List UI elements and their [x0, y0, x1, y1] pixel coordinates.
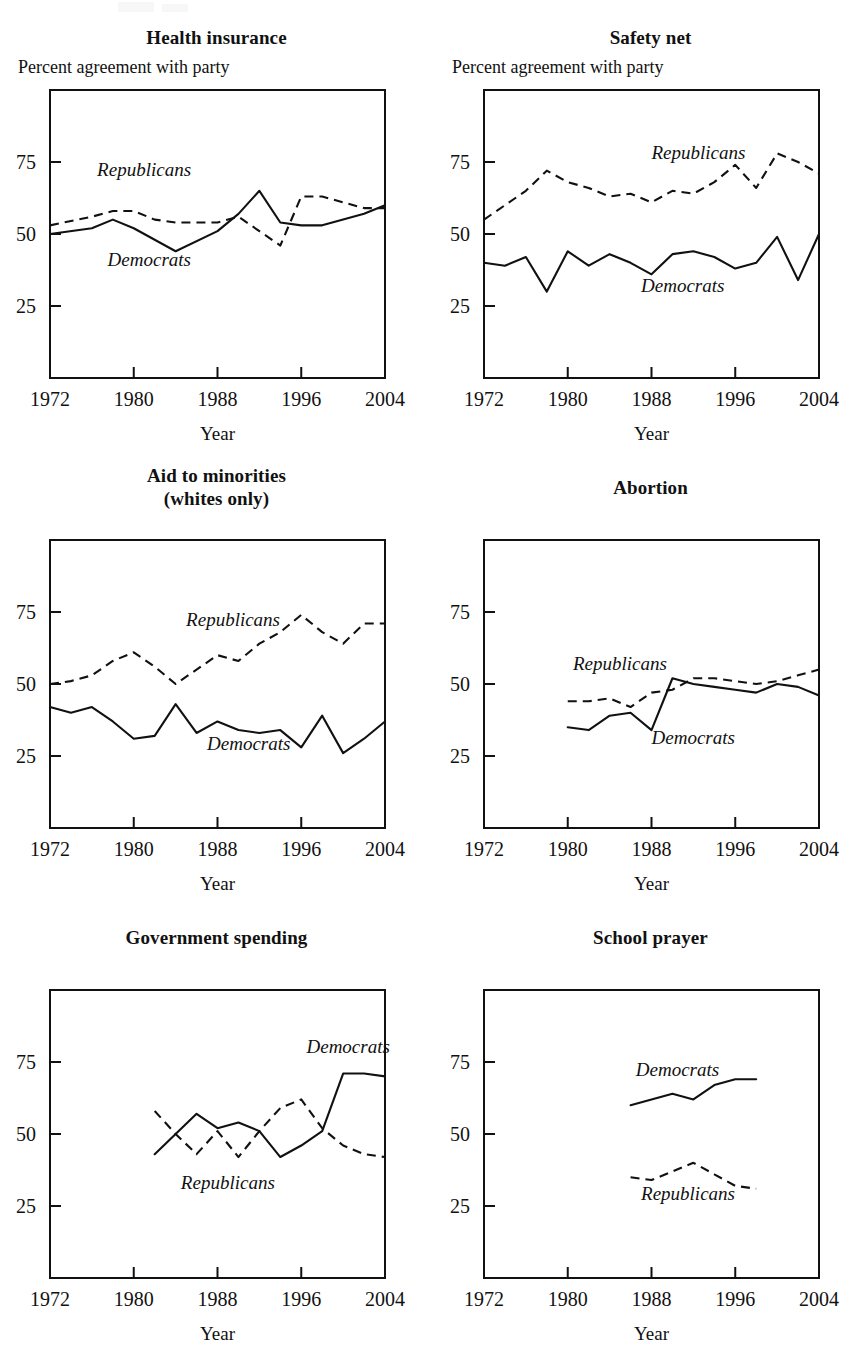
series-line-democrats — [155, 1074, 385, 1158]
y-tick-label: 25 — [16, 745, 36, 767]
series-annotation-republicans: Republicans — [185, 609, 280, 630]
y-tick-label: 25 — [16, 1195, 36, 1217]
x-axis-label: Year — [634, 1323, 670, 1344]
x-tick-label: 1980 — [114, 388, 154, 410]
plot-area-abortion: 25507519721980198819962004RepublicansDem… — [434, 450, 867, 899]
series-annotation-republicans: Republicans — [180, 1172, 275, 1193]
x-tick-label: 1988 — [198, 388, 238, 410]
x-tick-label: 1980 — [548, 838, 588, 860]
chart-panel-abortion: Abortion25507519721980198819962004Republ… — [434, 450, 867, 899]
x-tick-label: 2004 — [365, 1288, 405, 1310]
plot-area-aid-to-minorities: 25507519721980198819962004RepublicansDem… — [0, 450, 433, 899]
y-tick-label: 75 — [16, 1051, 36, 1073]
y-tick-label: 50 — [16, 673, 36, 695]
series-annotation-democrats: Democrats — [107, 249, 191, 270]
x-tick-label: 1988 — [198, 1288, 238, 1310]
plot-frame — [50, 990, 385, 1278]
chart-panel-government-spending: Government spending255075197219801988199… — [0, 900, 433, 1348]
x-tick-label: 2004 — [365, 838, 405, 860]
plot-frame — [50, 90, 385, 378]
plot-area-safety-net: 25507519721980198819962004RepublicansDem… — [434, 0, 867, 449]
x-tick-label: 1996 — [281, 1288, 321, 1310]
x-tick-label: 1996 — [715, 838, 755, 860]
x-tick-label: 1996 — [281, 388, 321, 410]
series-annotation-democrats: Democrats — [640, 275, 724, 296]
plot-frame — [50, 540, 385, 828]
series-annotation-democrats: Democrats — [651, 727, 735, 748]
y-tick-label: 75 — [450, 151, 470, 173]
x-tick-label: 1988 — [632, 1288, 672, 1310]
x-tick-label: 1980 — [548, 388, 588, 410]
x-tick-label: 1980 — [114, 1288, 154, 1310]
x-axis-label: Year — [634, 423, 670, 444]
y-tick-label: 50 — [450, 223, 470, 245]
x-tick-label: 2004 — [799, 838, 839, 860]
chart-panel-school-prayer: School prayer25507519721980198819962004D… — [434, 900, 867, 1348]
y-tick-label: 50 — [16, 223, 36, 245]
plot-area-school-prayer: 25507519721980198819962004DemocratsRepub… — [434, 900, 867, 1348]
series-annotation-republicans: Republicans — [640, 1183, 735, 1204]
plot-area-government-spending: 25507519721980198819962004DemocratsRepub… — [0, 900, 433, 1348]
series-annotation-republicans: Republicans — [572, 653, 667, 674]
x-axis-label: Year — [200, 423, 236, 444]
x-tick-label: 1996 — [715, 388, 755, 410]
series-annotation-democrats: Democrats — [206, 733, 290, 754]
chart-panel-health-insurance: Health insurancePercent agreement with p… — [0, 0, 433, 449]
y-tick-label: 50 — [16, 1123, 36, 1145]
plot-frame — [484, 90, 819, 378]
y-tick-label: 75 — [450, 601, 470, 623]
series-annotation-democrats: Democrats — [305, 1036, 389, 1057]
series-annotation-democrats: Democrats — [635, 1059, 719, 1080]
chart-panel-safety-net: Safety netPercent agreement with party25… — [434, 0, 867, 449]
x-tick-label: 1996 — [281, 838, 321, 860]
x-tick-label: 2004 — [799, 1288, 839, 1310]
x-axis-label: Year — [200, 873, 236, 894]
x-tick-label: 1972 — [464, 838, 504, 860]
x-axis-label: Year — [200, 1323, 236, 1344]
y-tick-label: 25 — [450, 295, 470, 317]
x-tick-label: 1972 — [30, 388, 70, 410]
x-tick-label: 1988 — [632, 388, 672, 410]
y-tick-label: 50 — [450, 673, 470, 695]
x-tick-label: 1980 — [548, 1288, 588, 1310]
series-line-democrats — [631, 1079, 757, 1105]
y-tick-label: 75 — [16, 601, 36, 623]
x-tick-label: 1996 — [715, 1288, 755, 1310]
y-tick-label: 50 — [450, 1123, 470, 1145]
x-tick-label: 1972 — [464, 388, 504, 410]
x-tick-label: 1980 — [114, 838, 154, 860]
chart-panel-aid-to-minorities: Aid to minorities(whites only)2550751972… — [0, 450, 433, 899]
series-line-republicans — [155, 1099, 385, 1157]
series-line-republicans — [484, 153, 819, 219]
y-tick-label: 25 — [450, 1195, 470, 1217]
x-tick-label: 1972 — [464, 1288, 504, 1310]
x-tick-label: 1972 — [30, 838, 70, 860]
plot-frame — [484, 540, 819, 828]
plot-area-health-insurance: 25507519721980198819962004RepublicansDem… — [0, 0, 433, 449]
x-tick-label: 1988 — [632, 838, 672, 860]
y-tick-label: 25 — [450, 745, 470, 767]
series-annotation-republicans: Republicans — [96, 159, 191, 180]
series-line-republicans — [568, 670, 819, 707]
x-tick-label: 2004 — [799, 388, 839, 410]
y-tick-label: 75 — [450, 1051, 470, 1073]
series-annotation-republicans: Republicans — [651, 142, 746, 163]
x-axis-label: Year — [634, 873, 670, 894]
y-tick-label: 75 — [16, 151, 36, 173]
plot-frame — [484, 990, 819, 1278]
x-tick-label: 1988 — [198, 838, 238, 860]
x-tick-label: 2004 — [365, 388, 405, 410]
y-tick-label: 25 — [16, 295, 36, 317]
multi-panel-line-chart-figure: Health insurancePercent agreement with p… — [0, 0, 867, 1348]
x-tick-label: 1972 — [30, 1288, 70, 1310]
series-line-democrats — [568, 678, 819, 730]
